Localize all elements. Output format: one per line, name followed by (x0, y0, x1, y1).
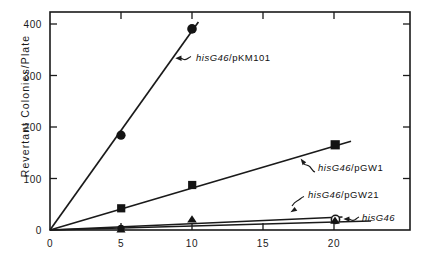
annotation-arrow-pgw1 (301, 159, 315, 172)
series-label-plain: /pKM101 (229, 52, 271, 63)
series-label-hisg46-pkm101: hisG46/pKM101 (196, 52, 271, 63)
series-label-plain: /pGW21 (341, 189, 379, 200)
figure-container: Revertant Colonies/Plate 400 300 200 100… (0, 0, 425, 263)
data-point (187, 24, 197, 34)
series-label-italic: hisG46 (362, 212, 395, 223)
series-label-italic: hisG46 (318, 162, 351, 173)
series-markers-hisg46-pkm101 (116, 24, 196, 232)
series-line-hisg46-pkm101 (50, 22, 198, 230)
y-axis-ticks-right (403, 24, 410, 179)
data-point (117, 225, 124, 232)
data-point (188, 181, 196, 189)
series-label-hisg46: hisG46 (362, 212, 395, 223)
plot-area (0, 0, 425, 263)
series-label-plain: /pGW1 (351, 162, 383, 173)
data-point (117, 204, 125, 212)
data-point (331, 140, 340, 149)
x-axis-ticks-top (121, 12, 334, 19)
series-label-italic: hisG46 (196, 52, 229, 63)
series-label-hisg46-pgw21: hisG46/pGW21 (308, 189, 379, 200)
series-label-italic: hisG46 (308, 189, 341, 200)
annotation-arrow-pgw21 (290, 197, 304, 213)
series-label-hisg46-pgw1: hisG46/pGW1 (318, 162, 383, 173)
series-markers-hisg46-pgw1 (117, 140, 340, 212)
data-point (187, 215, 197, 222)
series-line-hisg46-pgw1 (50, 141, 351, 230)
annotation-arrow-pkm101 (175, 56, 191, 61)
data-point (116, 131, 125, 140)
y-axis-ticks (50, 24, 57, 179)
